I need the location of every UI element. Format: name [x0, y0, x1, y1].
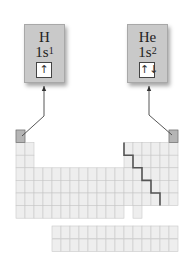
- table-cell: [16, 143, 25, 156]
- f-block-cell: [79, 226, 88, 239]
- table-cell: [25, 193, 34, 206]
- helium-symbol: He: [128, 30, 167, 45]
- table-cell: [34, 193, 43, 206]
- arrowhead-icon: [42, 86, 46, 91]
- table-cell: [106, 206, 115, 219]
- f-block-cell: [169, 226, 178, 239]
- table-cell: [151, 168, 160, 181]
- table-cell: [79, 180, 88, 193]
- table-cell: [169, 155, 178, 168]
- table-cell: [97, 193, 106, 206]
- f-block-cell: [124, 239, 133, 252]
- f-block-cell: [97, 226, 106, 239]
- hydrogen-symbol: H: [25, 30, 64, 45]
- f-block-cell: [142, 226, 151, 239]
- table-cell: [97, 180, 106, 193]
- table-cell: [61, 180, 70, 193]
- table-cell: [52, 206, 61, 219]
- table-cell: [124, 193, 133, 206]
- table-cell: [106, 168, 115, 181]
- table-cell: [25, 206, 34, 219]
- table-cell: [115, 206, 124, 219]
- table-cell: [79, 206, 88, 219]
- arrowhead-icon: [147, 86, 151, 91]
- table-cell: [97, 206, 106, 219]
- f-block-cell: [97, 239, 106, 252]
- table-cell: [25, 180, 34, 193]
- table-cell: [88, 168, 97, 181]
- table-cell: [124, 155, 133, 168]
- table-cell: [151, 155, 160, 168]
- table-cell: [106, 180, 115, 193]
- table-cell: [79, 168, 88, 181]
- table-cell: [133, 143, 142, 156]
- table-cell: [43, 193, 52, 206]
- table-cell: [124, 168, 133, 181]
- table-cell: [142, 193, 151, 206]
- table-cell: [133, 180, 142, 193]
- table-cell: [16, 180, 25, 193]
- helium-cell: [169, 130, 178, 143]
- f-block-cell: [151, 239, 160, 252]
- f-block-cell: [88, 239, 97, 252]
- table-cell: [115, 193, 124, 206]
- f-block-cell: [88, 226, 97, 239]
- table-cell: [169, 193, 178, 206]
- table-cell: [142, 168, 151, 181]
- f-block-cell: [106, 226, 115, 239]
- table-cell: [25, 168, 34, 181]
- table-cell: [97, 168, 106, 181]
- table-cell: [61, 193, 70, 206]
- table-cell: [70, 180, 79, 193]
- table-cell: [133, 168, 142, 181]
- f-block-cell: [115, 226, 124, 239]
- f-block-cell: [124, 226, 133, 239]
- f-block-cell: [52, 239, 61, 252]
- f-block-cell: [160, 226, 169, 239]
- hydrogen-orbital-box: ↑: [36, 62, 52, 78]
- table-cell: [16, 155, 25, 168]
- table-cell: [52, 193, 61, 206]
- table-cell: [133, 155, 142, 168]
- f-block-cell: [70, 239, 79, 252]
- f-block-cell: [133, 239, 142, 252]
- table-cell: [43, 206, 52, 219]
- helium-leader-arrow: [149, 86, 172, 135]
- table-cell: [79, 193, 88, 206]
- table-cell: [124, 143, 133, 156]
- f-block-cell: [160, 239, 169, 252]
- f-block-cell: [70, 226, 79, 239]
- table-cell: [169, 180, 178, 193]
- table-cell: [16, 206, 25, 219]
- table-cell: [151, 180, 160, 193]
- table-cell: [70, 206, 79, 219]
- hydrogen-card: H 1s1 ↑: [24, 24, 65, 83]
- table-cell: [88, 193, 97, 206]
- table-cell: [160, 193, 169, 206]
- f-block-cell: [61, 226, 70, 239]
- table-cell: [160, 155, 169, 168]
- table-cell: [151, 143, 160, 156]
- table-cell: [169, 143, 178, 156]
- helium-orbital-box: ↑↓: [139, 62, 155, 78]
- hydrogen-configuration: 1s1: [25, 45, 64, 60]
- f-block-cell: [106, 239, 115, 252]
- table-cell: [88, 180, 97, 193]
- table-cell: [115, 168, 124, 181]
- table-cell: [25, 155, 34, 168]
- table-cell: [169, 168, 178, 181]
- table-cell: [34, 180, 43, 193]
- table-cell: [16, 168, 25, 181]
- f-block-cell: [142, 239, 151, 252]
- table-cell: [115, 180, 124, 193]
- table-cell: [160, 168, 169, 181]
- table-cell: [133, 193, 142, 206]
- table-cell: [52, 180, 61, 193]
- table-cell: [61, 206, 70, 219]
- table-cell: [43, 168, 52, 181]
- helium-configuration: 1s2: [128, 45, 167, 60]
- f-block-cell: [52, 226, 61, 239]
- f-block-cell: [61, 239, 70, 252]
- helium-card: He 1s2 ↑↓: [127, 24, 168, 83]
- table-cell: [106, 193, 115, 206]
